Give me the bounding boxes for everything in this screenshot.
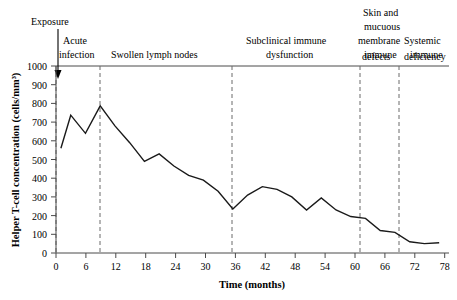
- phase-label-skin-defects: defects: [362, 51, 390, 62]
- x-tick-label-60: 60: [350, 261, 360, 272]
- phase-label-systemic-line1: Systemic: [404, 35, 441, 46]
- x-tick-label-66: 66: [380, 261, 390, 272]
- x-tick-label-6: 6: [83, 261, 88, 272]
- x-tick-label-72: 72: [410, 261, 420, 272]
- y-tick-label-200: 200: [32, 211, 47, 222]
- x-tick-label-36: 36: [230, 261, 240, 272]
- phase-label-systemic-deficiency: deficiency: [404, 51, 446, 62]
- x-tick-label-42: 42: [260, 261, 270, 272]
- exposure-label: Exposure: [31, 16, 69, 27]
- phase-label-subclinical-line1: Subclinical immune: [246, 35, 327, 46]
- phase-label-skin-line1: Skin and: [363, 7, 398, 18]
- x-tick-label-54: 54: [320, 261, 330, 272]
- x-tick-label-24: 24: [171, 261, 181, 272]
- x-tick-label-0: 0: [54, 261, 59, 272]
- x-tick-label-18: 18: [141, 261, 151, 272]
- y-tick-label-700: 700: [32, 117, 47, 128]
- y-tick-label-500: 500: [32, 155, 47, 166]
- phase-label-skin-line3: membrane: [358, 35, 401, 46]
- tcell-decline-chart: Exposure Acute infection Swollen lymph n…: [0, 0, 457, 300]
- x-tick-label-48: 48: [290, 261, 300, 272]
- y-tick-label-400: 400: [32, 173, 47, 184]
- chart-canvas: Exposure Acute infection Swollen lymph n…: [0, 0, 457, 300]
- phase-label-swollen-lymph-nodes: Swollen lymph nodes: [111, 49, 198, 60]
- phase-label-acute-line1: Acute: [63, 35, 87, 46]
- x-tick-label-78: 78: [440, 261, 450, 272]
- x-tick-label-30: 30: [201, 261, 211, 272]
- phase-label-acute-line2: infection: [59, 49, 95, 60]
- y-tick-label-0: 0: [42, 248, 47, 259]
- y-tick-label-600: 600: [32, 136, 47, 147]
- y-tick-label-300: 300: [32, 192, 47, 203]
- y-tick-label-100: 100: [32, 229, 47, 240]
- y-tick-label-800: 800: [32, 98, 47, 109]
- tcell-concentration-line: [61, 106, 439, 244]
- y-tick-label-1000: 1000: [27, 61, 47, 72]
- phase-label-skin-line2: mucuous: [364, 21, 400, 32]
- x-axis-title: Time (months): [219, 279, 286, 291]
- x-tick-label-12: 12: [111, 261, 121, 272]
- y-axis-title: Helper T-cell concentration (cells/mm³): [10, 72, 22, 247]
- y-tick-label-900: 900: [32, 80, 47, 91]
- phase-label-subclinical-line2: dysfunction: [266, 49, 313, 60]
